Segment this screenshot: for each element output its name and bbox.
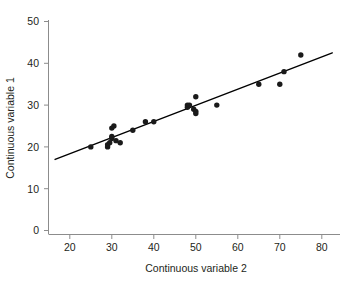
y-tick-label-0: 0 xyxy=(33,224,39,236)
data-point xyxy=(88,144,93,149)
y-tick-label-4: 40 xyxy=(27,57,39,69)
data-point xyxy=(130,127,135,132)
x-tick-label-4: 60 xyxy=(232,241,244,253)
y-tick-label-5: 50 xyxy=(27,15,39,27)
data-point xyxy=(109,134,114,139)
x-tick-label-6: 80 xyxy=(316,241,328,253)
data-point xyxy=(193,94,198,99)
x-tick-label-5: 70 xyxy=(274,241,286,253)
x-tick-label-1: 30 xyxy=(106,241,118,253)
regression-line xyxy=(55,53,332,160)
x-axis-ticks: 20 30 40 50 60 70 80 xyxy=(64,235,328,254)
y-tick-label-1: 10 xyxy=(27,183,39,195)
x-tick-label-3: 50 xyxy=(190,241,202,253)
data-point xyxy=(193,111,198,116)
data-point xyxy=(187,102,192,107)
data-point xyxy=(277,82,282,87)
data-point xyxy=(256,82,261,87)
data-point xyxy=(111,123,116,128)
data-point xyxy=(143,119,148,124)
y-axis-title: Continuous variable 1 xyxy=(4,77,16,179)
data-point xyxy=(118,140,123,145)
data-point xyxy=(214,102,219,107)
plot-canvas: 0 10 20 30 40 50 20 30 40 50 60 70 80 xyxy=(0,0,352,285)
scatter-plot-figure: 0 10 20 30 40 50 20 30 40 50 60 70 80 xyxy=(0,0,352,285)
x-axis-title: Continuous variable 2 xyxy=(145,262,247,274)
axes-group xyxy=(49,20,341,235)
data-point xyxy=(151,119,156,124)
x-tick-label-2: 40 xyxy=(148,241,160,253)
y-tick-label-3: 30 xyxy=(27,99,39,111)
x-tick-label-0: 20 xyxy=(64,241,76,253)
data-point xyxy=(281,69,286,74)
y-tick-label-2: 20 xyxy=(27,141,39,153)
data-point xyxy=(298,52,303,57)
y-axis-ticks: 0 10 20 30 40 50 xyxy=(27,15,48,236)
